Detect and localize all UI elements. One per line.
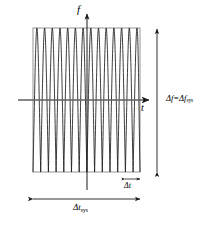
t-axis-label: t xyxy=(141,103,144,113)
figure-canvas: f t Δf=Δfsys Δt Δtsys xyxy=(0,0,206,225)
diagram-svg xyxy=(0,0,206,225)
delta-t-period-label: Δt xyxy=(124,182,131,190)
f-axis-label: f xyxy=(77,4,80,15)
delta-f-sys-label: Δf=Δfsys xyxy=(166,94,193,103)
delta-t-period-prefix: Δt xyxy=(124,181,131,190)
delta-f-sys-subscript: sys xyxy=(186,97,193,103)
delta-t-sys-label: Δtsys xyxy=(73,203,88,212)
delta-f-sys-prefix: Δf=Δf xyxy=(166,93,186,103)
delta-t-sys-prefix: Δt xyxy=(73,202,81,212)
delta-t-sys-subscript: sys xyxy=(81,207,88,213)
